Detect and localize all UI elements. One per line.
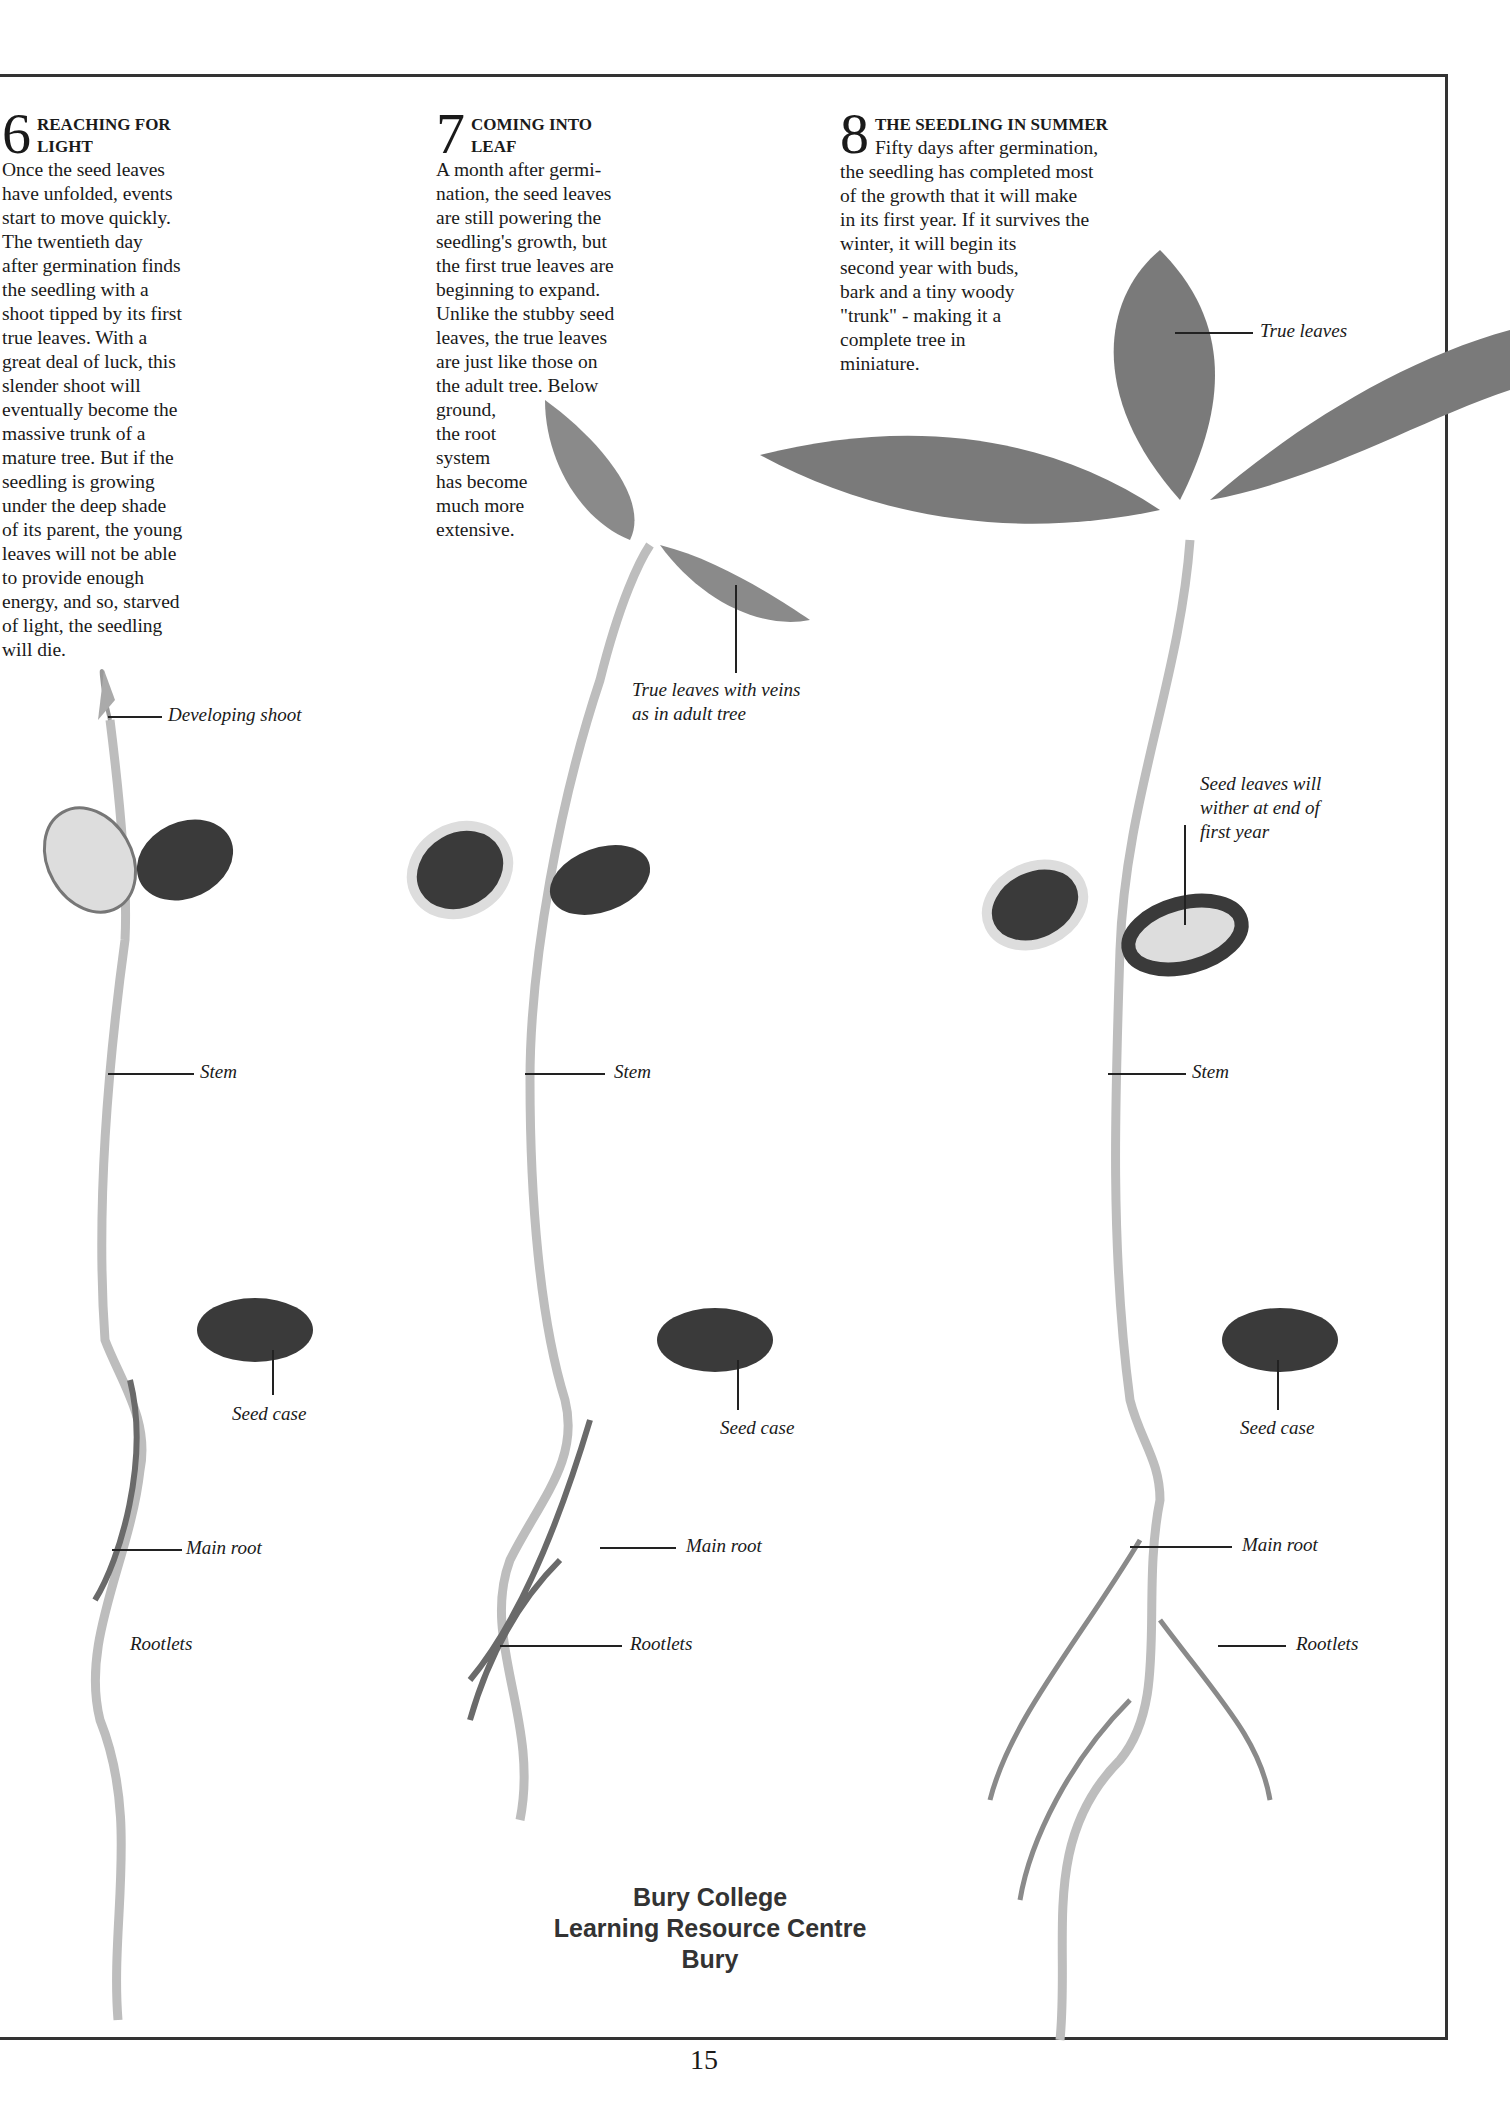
section-6-header: 6 REACHING FOR LIGHT xyxy=(2,108,242,158)
label-true-leaves-veins-2: as in adult tree xyxy=(632,702,746,726)
leader-rootlets-7 xyxy=(500,1645,622,1647)
label-stem-8: Stem xyxy=(1192,1060,1229,1084)
label-true-leaves: True leaves xyxy=(1260,319,1347,343)
leader-seed-case-6 xyxy=(272,1350,274,1395)
leader-main-root-7 xyxy=(600,1547,676,1549)
section-7-body: A month after germi- nation, the seed le… xyxy=(436,158,676,542)
label-developing-shoot: Developing shoot xyxy=(168,703,302,727)
section-7: 7 COMING INTO LEAF A month after germi- … xyxy=(436,108,676,542)
section-7-title: COMING INTO LEAF xyxy=(471,114,592,158)
leader-developing-shoot xyxy=(108,716,162,718)
leader-stem-8 xyxy=(1108,1073,1186,1075)
label-seed-case-6: Seed case xyxy=(232,1402,306,1426)
label-true-leaves-veins-1: True leaves with veins xyxy=(632,678,800,702)
section-6-body: Once the seed leaves have unfolded, even… xyxy=(2,158,242,662)
label-seed-case-8: Seed case xyxy=(1240,1416,1314,1440)
leader-true-leaves-veins xyxy=(735,585,737,673)
label-seed-case-7: Seed case xyxy=(720,1416,794,1440)
seedling-8-illustration xyxy=(760,250,1510,2040)
section-6-number: 6 xyxy=(2,112,31,156)
section-8-header: 8 THE SEEDLING IN SUMMER Fifty days afte… xyxy=(840,108,1180,160)
section-8-number: 8 xyxy=(840,112,869,156)
seedling-7-illustration xyxy=(396,400,810,1820)
label-seed-leaves-3: first year xyxy=(1200,820,1269,844)
label-rootlets-6: Rootlets xyxy=(130,1632,192,1656)
label-rootlets-7: Rootlets xyxy=(630,1632,692,1656)
label-main-root-8: Main root xyxy=(1242,1533,1318,1557)
library-stamp: Bury College Learning Resource Centre Bu… xyxy=(540,1882,880,1975)
leader-main-root-8 xyxy=(1130,1546,1232,1548)
leader-stem-6 xyxy=(108,1073,194,1075)
section-7-header: 7 COMING INTO LEAF xyxy=(436,108,676,158)
section-6-title: REACHING FOR LIGHT xyxy=(37,114,171,158)
leader-stem-7 xyxy=(525,1073,605,1075)
label-main-root-7: Main root xyxy=(686,1534,762,1558)
label-seed-leaves-2: wither at end of xyxy=(1200,796,1320,820)
section-8-body: the seedling has completed most of the g… xyxy=(840,160,1180,376)
label-seed-leaves-1: Seed leaves will xyxy=(1200,772,1321,796)
leader-seed-case-7 xyxy=(737,1360,739,1410)
leader-main-root-6 xyxy=(112,1549,182,1551)
leader-seed-leaves xyxy=(1184,825,1186,925)
section-8-title: THE SEEDLING IN SUMMER xyxy=(875,114,1108,136)
leader-rootlets-8 xyxy=(1218,1645,1286,1647)
label-stem-6: Stem xyxy=(200,1060,237,1084)
seedling-6-illustration xyxy=(26,670,313,2020)
label-stem-7: Stem xyxy=(614,1060,651,1084)
leader-true-leaves xyxy=(1175,332,1253,334)
section-6: 6 REACHING FOR LIGHT Once the seed leave… xyxy=(2,108,242,662)
leader-seed-case-8 xyxy=(1277,1360,1279,1410)
page-number: 15 xyxy=(690,2044,718,2076)
label-main-root-6: Main root xyxy=(186,1536,262,1560)
section-8: 8 THE SEEDLING IN SUMMER Fifty days afte… xyxy=(840,108,1180,376)
label-rootlets-8: Rootlets xyxy=(1296,1632,1358,1656)
section-7-number: 7 xyxy=(436,112,465,156)
section-8-first-line: Fifty days after germination, xyxy=(875,136,1108,160)
